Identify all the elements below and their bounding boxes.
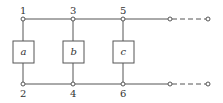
- top-open-terminal: [168, 17, 172, 21]
- node-1: [21, 17, 25, 21]
- node-3: [71, 17, 75, 21]
- node-6: [121, 82, 125, 86]
- node-label-4: 4: [70, 88, 76, 99]
- top-end-terminal: [206, 17, 210, 21]
- node-label-5: 5: [120, 5, 126, 16]
- node-label-1: 1: [20, 5, 26, 16]
- node-5: [121, 17, 125, 21]
- node-label-2: 2: [20, 88, 26, 99]
- element-label-a: a: [21, 46, 27, 57]
- bottom-end-terminal: [206, 82, 210, 86]
- node-label-6: 6: [120, 88, 126, 99]
- node-4: [71, 82, 75, 86]
- ladder-network-diagram: 1 3 5 2 4 6 a b c: [0, 0, 223, 103]
- element-label-b: b: [71, 46, 77, 57]
- bottom-open-terminal: [168, 82, 172, 86]
- element-label-c: c: [121, 46, 127, 57]
- node-label-3: 3: [70, 5, 76, 16]
- node-2: [21, 82, 25, 86]
